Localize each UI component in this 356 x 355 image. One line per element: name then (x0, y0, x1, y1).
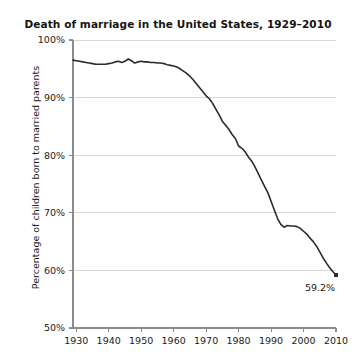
y-tick-label: 100% (38, 34, 65, 45)
y-tick-label: 70% (44, 207, 65, 218)
x-axis-ticks: 193019401950196019701980199020002010 (64, 328, 348, 346)
data-annotation-label: 59.2% (305, 282, 335, 293)
x-tick-label: 1940 (97, 335, 121, 346)
data-series-line (73, 59, 336, 275)
y-tick-label: 50% (44, 322, 65, 333)
x-tick-label: 1960 (162, 335, 186, 346)
gridlines (73, 40, 336, 328)
x-tick-label: 1970 (194, 335, 218, 346)
y-tick-label: 60% (44, 265, 65, 276)
y-tick-label: 80% (44, 150, 65, 161)
x-tick-label: 2000 (291, 335, 315, 346)
x-tick-label: 1950 (129, 335, 153, 346)
line-chart-plot: 100%90%80%70%60%50% 19301940195019601970… (0, 0, 356, 355)
x-tick-label: 2010 (324, 335, 348, 346)
y-axis-ticks: 100%90%80%70%60%50% (38, 34, 73, 333)
end-point-marker (334, 273, 338, 277)
y-tick-label: 90% (44, 92, 65, 103)
chart-figure: Death of marriage in the United States, … (0, 0, 356, 355)
x-tick-label: 1980 (226, 335, 250, 346)
data-annotations: 59.2% (305, 282, 335, 293)
x-tick-label: 1990 (259, 335, 283, 346)
x-tick-label: 1930 (64, 335, 88, 346)
